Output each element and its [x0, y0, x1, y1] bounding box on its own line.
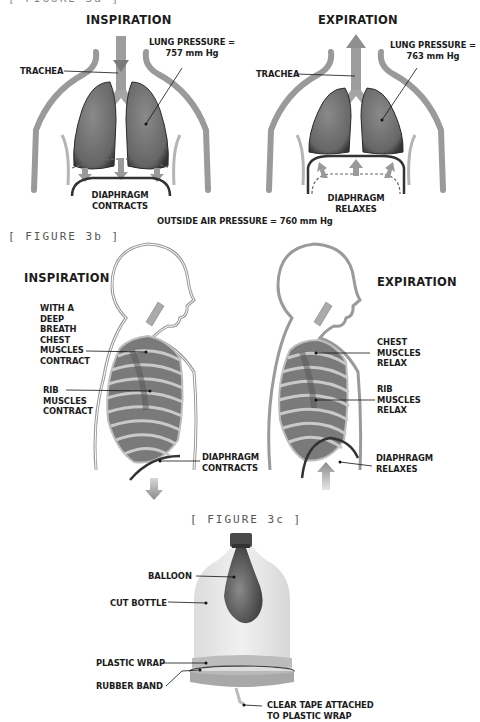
fig3b-expiration-diaphragm-label: DIAPHRAGM RELAXES	[376, 453, 433, 474]
fig3b-expiration-chest-label: CHEST MUSCLES RELAX	[377, 337, 421, 369]
fig3a-expiration-lung-pressure-label: LUNG PRESSURE = 763 mm Hg	[388, 40, 478, 61]
fig3b-expiration-rib-label: RIB MUSCLES RELAX	[377, 384, 421, 416]
figure-3a-caption: [ FIGURE 3a ]	[8, 0, 120, 5]
fig3a-inspiration-lung-pressure-label: LUNG PRESSURE = 757 mm Hg	[148, 37, 236, 58]
fig3b-inspiration-rib-label: RIB MUSCLES CONTRACT	[43, 385, 93, 417]
fig3c-balloon-label: BALLOON	[148, 571, 192, 582]
fig3a-expiration-trachea-label: TRACHEA	[256, 69, 299, 80]
fig3a-inspiration-title: INSPIRATION	[86, 13, 171, 27]
fig3a-expiration-title: EXPIRATION	[318, 13, 398, 27]
fig3c-rubber-band-label: RUBBER BAND	[96, 681, 163, 692]
fig3b-expiration-title: EXPIRATION	[377, 275, 457, 289]
fig3a-inspiration-trachea-label: TRACHEA	[20, 66, 63, 77]
outside-air-pressure-label: OUTSIDE AIR PRESSURE = 760 mm Hg	[157, 216, 333, 227]
figure-3b-caption: [ FIGURE 3b ]	[8, 230, 120, 243]
fig3a-inspiration-art	[34, 36, 208, 196]
fig3a-inspiration-diaphragm-label: DIAPHRAGM CONTRACTS	[80, 190, 160, 211]
fig3a-expiration-diaphragm-label: DIAPHRAGM RELAXES	[316, 193, 396, 214]
fig3c-plastic-wrap-label: PLASTIC WRAP	[96, 658, 165, 669]
fig3c-cut-bottle-label: CUT BOTTLE	[110, 598, 167, 609]
fig3b-expiration-art	[269, 244, 375, 490]
fig3b-inspiration-diaphragm-label: DIAPHRAGM CONTRACTS	[202, 452, 259, 473]
fig3b-inspiration-chest-label: WITH A DEEP BREATH CHEST MUSCLES CONTRAC…	[40, 303, 90, 366]
figure-3c-caption: [ FIGURE 3c ]	[190, 513, 302, 526]
fig3c-bottle-art	[162, 533, 294, 707]
fig3c-clear-tape-label: CLEAR TAPE ATTACHED TO PLASTIC WRAP	[267, 700, 374, 721]
fig3b-inspiration-title: INSPIRATION	[24, 271, 109, 285]
